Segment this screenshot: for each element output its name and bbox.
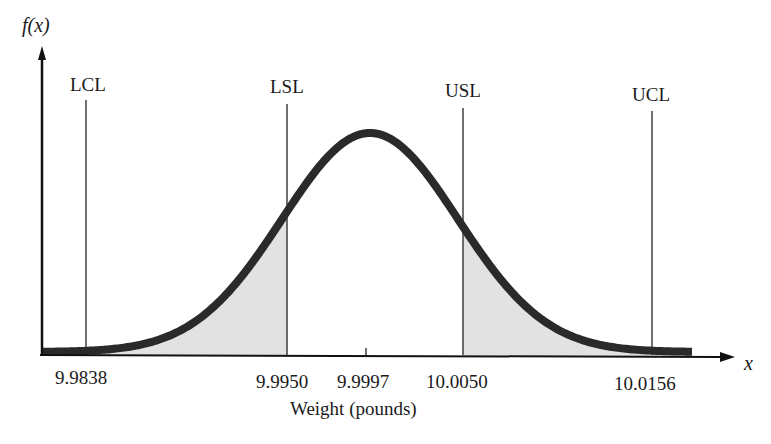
x-axis-arrow-icon (720, 352, 735, 362)
tick-label-9.9997: 9.9997 (337, 371, 389, 393)
normal-curve (42, 133, 692, 352)
y-axis-arrow-icon (38, 46, 46, 60)
x-axis-title: Weight (pounds) (290, 398, 417, 420)
chart-container: f(x) x LCL LSL USL UCL 9.9838 9.9950 9.9… (0, 0, 771, 444)
x-axis-symbol: x (744, 352, 753, 375)
tick-label-9.9838: 9.9838 (55, 367, 107, 389)
ucl-label: UCL (632, 84, 670, 106)
y-axis-label: f(x) (22, 14, 50, 37)
shaded-region-below-lsl (42, 133, 692, 356)
lsl-label: LSL (270, 76, 304, 98)
shaded-region-above-usl (42, 133, 692, 356)
tick-label-10.0156: 10.0156 (614, 373, 676, 395)
tick-label-9.9950: 9.9950 (256, 371, 308, 393)
usl-label: USL (445, 80, 481, 102)
lcl-label: LCL (70, 74, 106, 96)
tick-label-10.0050: 10.0050 (426, 371, 488, 393)
